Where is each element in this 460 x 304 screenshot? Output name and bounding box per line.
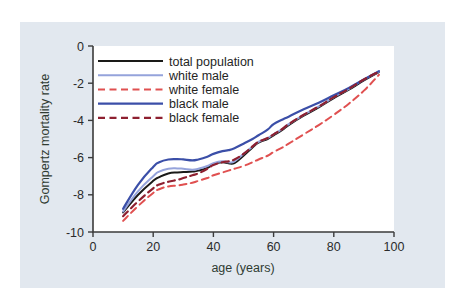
- x-axis-title: age (years): [211, 261, 274, 275]
- legend-label-black-female: black female: [169, 111, 239, 125]
- legend-label-black-male: black male: [169, 97, 229, 111]
- y-tick-label: -4: [73, 114, 84, 128]
- legend-label-white-female: white female: [168, 83, 239, 97]
- y-tick-label: -2: [73, 77, 84, 91]
- gompertz-mortality-chart: 0-2-4-6-8-10020406080100 total populatio…: [0, 0, 460, 304]
- legend-label-total-population: total population: [169, 55, 254, 69]
- x-tick-label: 20: [146, 240, 160, 254]
- x-tick-label: 40: [206, 240, 220, 254]
- y-tick-label: -10: [66, 226, 84, 240]
- x-tick-label: 100: [384, 240, 405, 254]
- y-axis-title: Gompertz mortality rate: [38, 74, 52, 205]
- y-tick-label: -6: [73, 151, 84, 165]
- x-tick-label: 80: [327, 240, 341, 254]
- y-tick-label: -8: [73, 188, 84, 202]
- legend-label-white-male: white male: [168, 69, 229, 83]
- y-tick-label: 0: [77, 40, 84, 54]
- x-tick-label: 0: [90, 240, 97, 254]
- x-tick-label: 60: [267, 240, 281, 254]
- plot-area-background: [93, 46, 394, 232]
